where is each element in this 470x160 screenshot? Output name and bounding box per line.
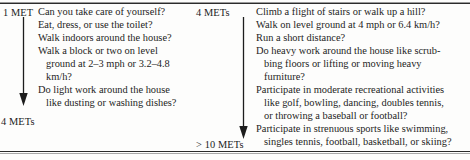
top-rule bbox=[0, 3, 470, 4]
activity-line: or throwing a baseball or football? bbox=[256, 110, 470, 123]
activity-line: Do heavy work around the house like scru… bbox=[256, 45, 470, 58]
left-down-arrow-icon bbox=[18, 17, 29, 107]
activity-line: Climb a flight of stairs or walk up a hi… bbox=[256, 6, 470, 19]
activity-line: Participate in moderate recreational act… bbox=[256, 84, 470, 97]
activity-line: ground at 2–3 mph or 3.2–4.8 bbox=[38, 58, 193, 71]
bottom-rule bbox=[0, 151, 470, 152]
activity-line: furniture? bbox=[256, 71, 470, 84]
activity-line: Participate in strenuous sports like swi… bbox=[256, 123, 470, 136]
right-scale-bottom-label: > 10 METs bbox=[196, 139, 244, 150]
activity-line: Can you take care of yourself? bbox=[38, 6, 193, 19]
activity-line: Walk a block or two on level bbox=[38, 45, 193, 58]
activity-line: like golf, bowling, dancing, doubles ten… bbox=[256, 97, 470, 110]
met-scale-figure: 1 MET 4 METs 4 METs > 10 METs Can you ta… bbox=[0, 0, 470, 160]
right-activity-list: Climb a flight of stairs or walk up a hi… bbox=[256, 6, 470, 148]
bottom-rule-shadow bbox=[0, 153, 470, 154]
activity-line: Run a short distance? bbox=[256, 32, 470, 45]
activity-line: like dusting or washing dishes? bbox=[38, 97, 193, 110]
activity-line: Do light work around the house bbox=[38, 84, 193, 97]
activity-line: km/h? bbox=[38, 71, 193, 84]
activity-line: singles tennis, football, basketball, or… bbox=[256, 136, 470, 149]
right-down-arrow-icon bbox=[238, 17, 249, 140]
activity-line: bing floors or lifting or moving heavy bbox=[256, 58, 470, 71]
right-scale-top-label: 4 METs bbox=[196, 7, 230, 18]
left-scale-bottom-label: 4 METs bbox=[1, 116, 35, 127]
activity-line: Walk on level ground at 4 mph or 6.4 km/… bbox=[256, 19, 470, 32]
activity-line: Eat, dress, or use the toilet? bbox=[38, 19, 193, 32]
activity-line: Walk indoors around the house? bbox=[38, 32, 193, 45]
left-activity-list: Can you take care of yourself?Eat, dress… bbox=[38, 6, 193, 110]
